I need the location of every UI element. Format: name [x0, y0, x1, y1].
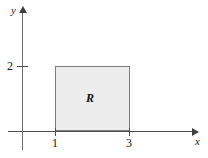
- y-axis-label: y: [11, 5, 16, 16]
- coordinate-plane-figure: R 2 1 3 x y: [0, 0, 208, 158]
- y-axis-tick-label-2: 2: [7, 60, 13, 72]
- region-label-r: R: [86, 92, 94, 104]
- y-axis-arrowhead-icon: [19, 6, 27, 13]
- x-axis-line: [8, 131, 194, 132]
- x-axis-tick-1: [55, 128, 56, 136]
- x-axis-tick-3: [129, 128, 130, 136]
- x-axis-tick-label-1: 1: [52, 137, 58, 149]
- x-axis-tick-label-3: 3: [126, 137, 132, 149]
- y-axis-line: [22, 12, 23, 150]
- x-axis-label: x: [195, 136, 200, 147]
- y-axis-tick-2: [17, 66, 28, 67]
